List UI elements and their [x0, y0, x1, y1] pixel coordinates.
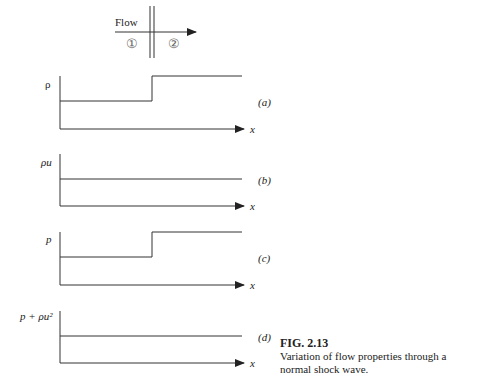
panel-b-tag: (b)	[258, 174, 271, 186]
flow-label: Flow	[115, 16, 138, 28]
panel-c-tag: (c)	[258, 252, 270, 264]
panel-a-xlabel: x	[250, 123, 255, 135]
panel-b-xlabel: x	[250, 200, 255, 212]
panel-c-xlabel: x	[250, 279, 255, 291]
panel-d	[60, 311, 244, 363]
panel-b	[60, 154, 244, 206]
caption-text: Variation of flow properties through a n…	[280, 350, 480, 376]
region-1-label: ①	[126, 38, 138, 50]
panel-b-ylabel: ρu	[41, 156, 52, 168]
figure-graphics	[0, 0, 485, 391]
panel-a	[60, 76, 244, 129]
panel-d-tag: (d)	[258, 331, 271, 343]
figure-caption: FIG. 2.13 Variation of flow properties t…	[280, 337, 480, 376]
panel-c-ylabel: p	[46, 233, 52, 245]
panel-d-xlabel: x	[250, 357, 255, 369]
region-2-label: ②	[168, 38, 180, 50]
caption-title: FIG. 2.13	[280, 337, 480, 350]
panel-a-ylabel: ρ	[45, 78, 51, 90]
panel-d-ylabel: p + ρu²	[20, 310, 53, 322]
panel-a-tag: (a)	[258, 96, 271, 108]
panel-c	[60, 232, 244, 285]
